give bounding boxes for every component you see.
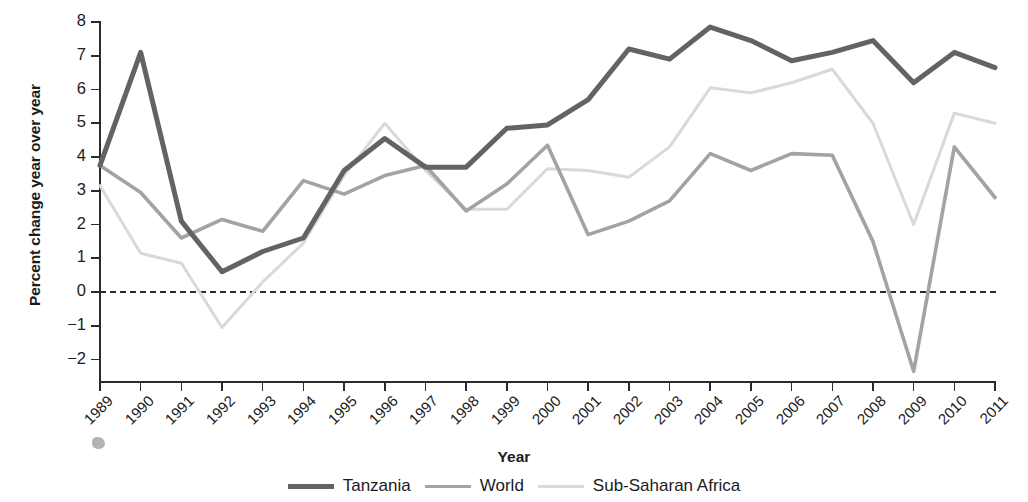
series-line-tanzania xyxy=(100,27,995,272)
x-axis-tick xyxy=(99,382,101,391)
x-axis-tick xyxy=(750,382,752,391)
legend-item-tanzania[interactable]: Tanzania xyxy=(288,476,411,496)
y-axis-tick-label: 5 xyxy=(0,112,98,131)
x-axis-tick xyxy=(384,382,386,391)
x-axis-tick xyxy=(303,382,305,391)
x-axis-tick xyxy=(709,382,711,391)
y-axis-tick-label: −1 xyxy=(0,315,98,334)
x-axis-tick xyxy=(547,382,549,391)
x-axis-tick xyxy=(221,382,223,391)
x-axis-tick xyxy=(872,382,874,391)
x-axis-tick xyxy=(262,382,264,391)
y-axis-tick-label: 0 xyxy=(0,281,98,300)
y-axis-line xyxy=(99,21,101,383)
gdp-growth-line-chart: Percent change year over year 876543210−… xyxy=(0,0,1028,502)
legend-item-label: Sub-Saharan Africa xyxy=(593,476,740,496)
y-axis-tick-label: 8 xyxy=(0,11,98,30)
series-line-sub-saharan-africa xyxy=(100,69,995,327)
legend-item-label: Tanzania xyxy=(343,476,411,496)
y-axis-tick-label: −2 xyxy=(0,349,98,368)
y-axis-tick-label: 1 xyxy=(0,247,98,266)
legend-item-sub-saharan-africa[interactable]: Sub-Saharan Africa xyxy=(538,476,740,496)
x-axis-tick xyxy=(954,382,956,391)
x-axis-tick xyxy=(465,382,467,391)
x-axis-tick xyxy=(506,382,508,391)
y-axis-tick-label: 2 xyxy=(0,214,98,233)
x-axis-tick xyxy=(425,382,427,391)
x-axis-tick xyxy=(791,382,793,391)
legend-item-label: World xyxy=(480,476,524,496)
x-axis-tick xyxy=(669,382,671,391)
y-axis-tick-label: 7 xyxy=(0,45,98,64)
legend-swatch-icon xyxy=(425,485,471,488)
x-axis-tick xyxy=(832,382,834,391)
legend: TanzaniaWorldSub-Saharan Africa xyxy=(0,476,1028,496)
y-axis-tick-label: 4 xyxy=(0,146,98,165)
zero-reference-line xyxy=(100,291,996,293)
x-axis-title: Year xyxy=(0,448,1028,466)
x-axis-tick xyxy=(343,382,345,391)
x-axis-tick xyxy=(628,382,630,391)
x-axis-tick xyxy=(587,382,589,391)
y-axis-tick-label: 6 xyxy=(0,79,98,98)
series-line-world xyxy=(100,145,995,371)
x-axis-tick xyxy=(994,382,996,391)
legend-item-world[interactable]: World xyxy=(425,476,524,496)
legend-swatch-icon xyxy=(538,485,584,488)
legend-swatch-icon xyxy=(288,484,334,489)
x-axis-tick xyxy=(913,382,915,391)
x-axis-tick xyxy=(181,382,183,391)
x-axis-tick xyxy=(140,382,142,391)
y-axis-tick-label: 3 xyxy=(0,180,98,199)
